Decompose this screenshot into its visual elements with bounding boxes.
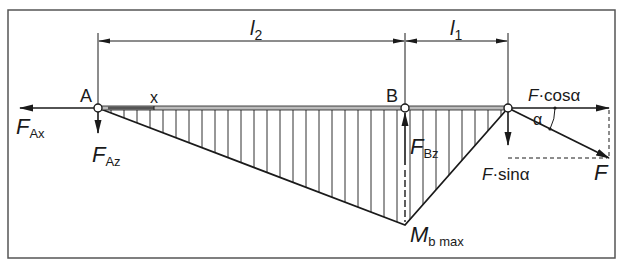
label-FAz: FAz — [92, 142, 121, 169]
force-F-arrow — [510, 109, 609, 158]
label-F: F — [594, 160, 609, 185]
beam — [98, 106, 508, 110]
bending-moment-diagram: l2 l1 A x B FAx FAz FBz F·cosα F·sinα F — [0, 0, 623, 268]
label-FAx: FAx — [16, 114, 45, 141]
label-l2: l2 — [250, 17, 262, 43]
label-x: x — [150, 89, 158, 106]
diagram-frame — [8, 10, 615, 258]
moment-hatching — [111, 110, 501, 222]
angle-arc — [550, 108, 555, 129]
label-B: B — [386, 86, 398, 106]
label-l1: l1 — [450, 17, 462, 43]
label-Fcos: F·cosα — [528, 86, 581, 105]
label-FBz: FBz — [410, 134, 439, 161]
label-Fsin: F·sinα — [482, 165, 530, 184]
extension-lines — [98, 33, 508, 108]
moment-outline — [98, 108, 508, 225]
label-A: A — [80, 86, 92, 106]
label-alpha: α — [533, 111, 542, 128]
label-Mbmax: Mb max — [410, 222, 464, 249]
